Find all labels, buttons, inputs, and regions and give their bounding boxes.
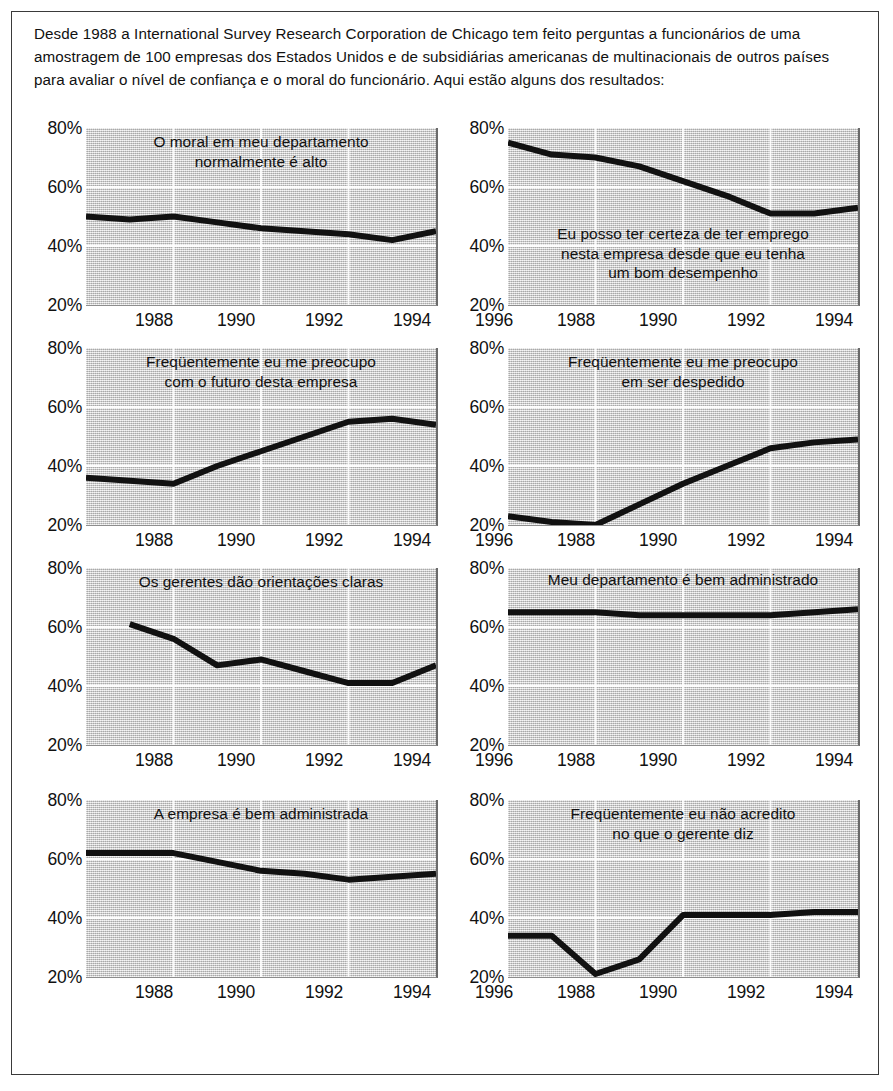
- x-tick-label: 1994: [393, 982, 431, 1003]
- y-tick-label: 80%: [470, 790, 504, 811]
- y-tick-label: 40%: [48, 908, 82, 929]
- x-tick-label: 1988: [135, 750, 173, 771]
- y-tick-label: 20%: [470, 515, 504, 536]
- y-tick-label: 80%: [470, 118, 504, 139]
- x-axis-6: 19881990199219941996: [86, 982, 438, 1008]
- y-tick-label: 20%: [470, 735, 504, 756]
- x-tick-label: 1990: [217, 530, 255, 551]
- x-tick-label: 1992: [305, 750, 343, 771]
- y-tick-label: 80%: [48, 118, 82, 139]
- x-tick-label: 1988: [135, 982, 173, 1003]
- x-tick-label: 1992: [727, 750, 765, 771]
- y-tick-label: 60%: [470, 177, 504, 198]
- x-tick-label: 1988: [557, 530, 595, 551]
- x-tick-label: 1990: [639, 750, 677, 771]
- plot-area-2: Freqüentemente eu me preocupo com o futu…: [86, 348, 438, 526]
- x-tick-label: 1988: [557, 982, 595, 1003]
- x-tick-label: 1990: [217, 750, 255, 771]
- y-tick-label: 40%: [470, 908, 504, 929]
- x-tick-label: 1994: [815, 310, 853, 331]
- plot-svg-2: [86, 348, 436, 525]
- plot-area-3: Freqüentemente eu me preocupo em ser des…: [508, 348, 860, 526]
- x-tick-label: 1988: [557, 750, 595, 771]
- y-tick-label: 40%: [48, 236, 82, 257]
- y-tick-label: 20%: [470, 967, 504, 988]
- x-tick-label: 1994: [393, 530, 431, 551]
- x-tick-label: 1994: [815, 750, 853, 771]
- y-tick-label: 20%: [470, 295, 504, 316]
- plot-svg-1: [508, 128, 858, 305]
- y-tick-label: 60%: [48, 617, 82, 638]
- plot-area-6: A empresa é bem administrada: [86, 800, 438, 978]
- y-tick-label: 40%: [470, 236, 504, 257]
- x-tick-label: 1994: [393, 750, 431, 771]
- y-axis-5: 80% 60% 40% 20%: [446, 564, 508, 750]
- y-tick-label: 20%: [48, 735, 82, 756]
- x-axis-3: 19881990199219941996: [508, 530, 860, 556]
- x-tick-label: 1988: [135, 310, 173, 331]
- y-tick-label: 60%: [470, 849, 504, 870]
- y-tick-label: 60%: [48, 397, 82, 418]
- x-tick-label: 1992: [727, 982, 765, 1003]
- x-tick-label: 1990: [217, 982, 255, 1003]
- y-tick-label: 20%: [48, 515, 82, 536]
- x-axis-4: 19881990199219941996: [86, 750, 438, 776]
- y-tick-label: 60%: [470, 617, 504, 638]
- y-tick-label: 80%: [48, 558, 82, 579]
- plot-svg-6: [86, 800, 436, 977]
- chart-panel-1: 80% 60% 40% 20% Eu posso ter certeza de …: [446, 124, 868, 344]
- x-tick-label: 1990: [639, 982, 677, 1003]
- plot-area-7: Freqüentemente eu não acredito no que o …: [508, 800, 860, 978]
- y-tick-label: 40%: [48, 456, 82, 477]
- plot-area-4: Os gerentes dão orientações claras: [86, 568, 438, 746]
- plot-svg-7: [508, 800, 858, 977]
- chart-panel-5: 80% 60% 40% 20% Meu departamento é bem a…: [446, 564, 868, 796]
- chart-grid: 80% 60% 40% 20% O moral em meu departame…: [24, 124, 868, 1030]
- plot-svg-4: [86, 568, 436, 745]
- y-tick-label: 40%: [48, 676, 82, 697]
- y-tick-label: 80%: [48, 790, 82, 811]
- y-tick-label: 80%: [48, 338, 82, 359]
- x-tick-label: 1988: [557, 310, 595, 331]
- x-tick-label: 1988: [135, 530, 173, 551]
- chart-panel-2: 80% 60% 40% 20% Freqüentemente eu me pre…: [24, 344, 446, 564]
- y-tick-label: 60%: [48, 849, 82, 870]
- y-tick-label: 60%: [470, 397, 504, 418]
- x-tick-label: 1992: [305, 530, 343, 551]
- x-tick-label: 1994: [815, 982, 853, 1003]
- y-tick-label: 20%: [48, 967, 82, 988]
- plot-area-1: Eu posso ter certeza de ter emprego nest…: [508, 128, 860, 306]
- intro-paragraph-text: Desde 1988 a International Survey Resear…: [34, 22, 854, 92]
- y-axis-4: 80% 60% 40% 20%: [24, 564, 86, 750]
- x-tick-label: 1994: [393, 310, 431, 331]
- plot-svg-5: [508, 568, 858, 745]
- x-tick-label: 1990: [639, 310, 677, 331]
- plot-svg-3: [508, 348, 858, 525]
- y-axis-7: 80% 60% 40% 20%: [446, 796, 508, 982]
- x-axis-2: 19881990199219941996: [86, 530, 438, 556]
- y-axis-6: 80% 60% 40% 20%: [24, 796, 86, 982]
- x-axis-5: 19881990199219941996: [508, 750, 860, 776]
- plot-area-0: O moral em meu departamento normalmente …: [86, 128, 438, 306]
- y-axis-2: 80% 60% 40% 20%: [24, 344, 86, 530]
- page-frame: Desde 1988 a International Survey Resear…: [11, 11, 879, 1075]
- intro-paragraph-block: Desde 1988 a International Survey Resear…: [34, 22, 854, 92]
- plot-area-5: Meu departamento é bem administrado: [508, 568, 860, 746]
- x-tick-label: 1990: [217, 310, 255, 331]
- chart-panel-3: 80% 60% 40% 20% Freqüentemente eu me pre…: [446, 344, 868, 564]
- chart-panel-4: 80% 60% 40% 20% Os gerentes dão orientaç…: [24, 564, 446, 796]
- plot-svg-0: [86, 128, 436, 305]
- chart-panel-0: 80% 60% 40% 20% O moral em meu departame…: [24, 124, 446, 344]
- x-tick-label: 1992: [727, 530, 765, 551]
- y-tick-label: 80%: [470, 558, 504, 579]
- x-axis-7: 19881990199219941996: [508, 982, 860, 1008]
- x-tick-label: 1990: [639, 530, 677, 551]
- x-tick-label: 1994: [815, 530, 853, 551]
- x-tick-label: 1992: [727, 310, 765, 331]
- chart-panel-6: 80% 60% 40% 20% A empresa é bem administ…: [24, 796, 446, 1030]
- y-tick-label: 60%: [48, 177, 82, 198]
- x-tick-label: 1992: [305, 310, 343, 331]
- y-tick-label: 40%: [470, 676, 504, 697]
- x-tick-label: 1992: [305, 982, 343, 1003]
- chart-panel-7: 80% 60% 40% 20% Freqüentemente eu não ac…: [446, 796, 868, 1030]
